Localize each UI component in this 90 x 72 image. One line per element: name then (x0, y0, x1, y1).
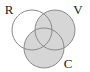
venn-diagram-figure: R V C (0, 0, 90, 72)
venn-label-r: R (5, 2, 14, 17)
venn-label-v: V (73, 2, 83, 17)
venn-label-c: C (64, 56, 73, 71)
venn-diagram-canvas: R V C (0, 0, 90, 72)
